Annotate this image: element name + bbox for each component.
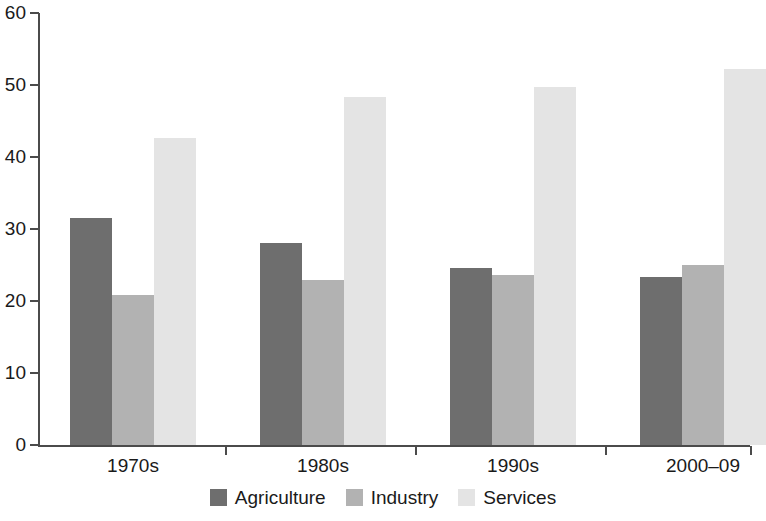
- bar-services-1990s: [534, 87, 576, 445]
- x-axis-line: [38, 445, 750, 447]
- legend-swatch-industry-icon: [346, 489, 363, 506]
- bar-agriculture-1990s: [450, 268, 492, 445]
- bars-layer: [0, 13, 766, 445]
- bar-chart: 0102030405060 1970s1980s1990s2000–09 Agr…: [0, 0, 766, 521]
- legend-item-industry[interactable]: Industry: [346, 488, 439, 507]
- x-axis-tick-mark: [605, 446, 607, 455]
- x-axis-tick-mark: [750, 446, 752, 455]
- bar-services-200009: [724, 69, 766, 445]
- bar-industry-1980s: [302, 280, 344, 445]
- bar-industry-1990s: [492, 275, 534, 445]
- bar-industry-200009: [682, 265, 724, 445]
- legend-swatch-services-icon: [458, 489, 475, 506]
- x-axis-tick-mark: [225, 446, 227, 455]
- legend-swatch-agriculture-icon: [210, 489, 227, 506]
- bar-agriculture-200009: [640, 277, 682, 445]
- legend-label: Agriculture: [235, 488, 326, 507]
- bar-agriculture-1970s: [70, 218, 112, 445]
- bar-agriculture-1980s: [260, 243, 302, 445]
- x-axis-tick-label-1970s: 1970s: [63, 456, 203, 477]
- legend-item-agriculture[interactable]: Agriculture: [210, 488, 326, 507]
- x-axis-tick-label-1990s: 1990s: [443, 456, 583, 477]
- bar-services-1980s: [344, 97, 386, 445]
- x-axis-tick-mark: [415, 446, 417, 455]
- legend-label: Industry: [371, 488, 439, 507]
- x-axis-tick-label-200009: 2000–09: [633, 456, 766, 477]
- bar-services-1970s: [154, 138, 196, 445]
- legend-item-services[interactable]: Services: [458, 488, 556, 507]
- x-axis-tick-label-1980s: 1980s: [253, 456, 393, 477]
- legend-label: Services: [483, 488, 556, 507]
- bar-industry-1970s: [112, 295, 154, 445]
- chart-legend: AgricultureIndustryServices: [0, 488, 766, 507]
